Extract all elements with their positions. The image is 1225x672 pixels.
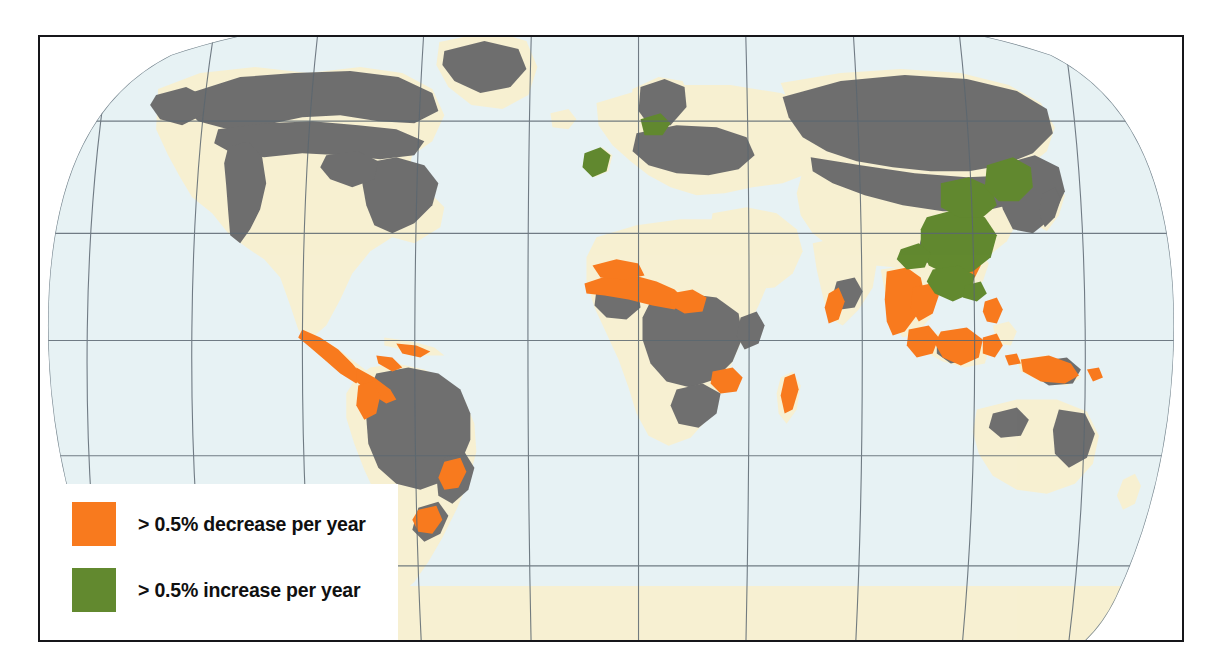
legend-swatch-decrease-icon [72,502,116,546]
legend-item-decrease[interactable]: > 0.5% decrease per year [72,502,366,546]
legend-label-increase: > 0.5% increase per year [138,579,360,602]
legend-item-increase[interactable]: > 0.5% increase per year [72,568,360,612]
figure-root: > 0.5% decrease per year > 0.5% increase… [0,0,1225,672]
legend-swatch-increase-icon [72,568,116,612]
map-frame: > 0.5% decrease per year > 0.5% increase… [38,35,1184,642]
legend-label-decrease: > 0.5% decrease per year [138,513,366,536]
legend-panel: > 0.5% decrease per year > 0.5% increase… [50,484,398,640]
